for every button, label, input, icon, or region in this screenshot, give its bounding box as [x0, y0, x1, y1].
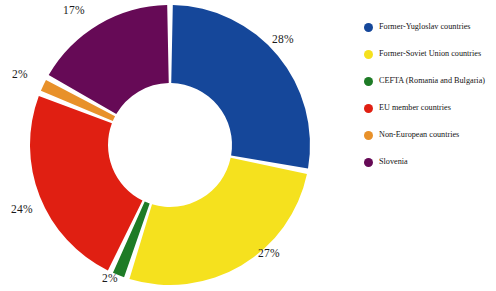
legend-item-label: Slovenia: [379, 158, 408, 166]
legend-item-label: CEFTA (Romania and Bulgaria): [379, 77, 485, 85]
legend-item-eu-member[interactable]: EU member countries: [364, 95, 496, 122]
legend-color-swatch-icon: [364, 50, 373, 59]
legend-item-slovenia[interactable]: Slovenia: [364, 149, 496, 176]
legend-color-swatch-icon: [364, 104, 373, 113]
legend-item-label: Former-Yugloslav countries: [379, 23, 470, 31]
donut-slice[interactable]: [129, 158, 307, 285]
chart-legend: Former-Yugloslav countries Former-Soviet…: [364, 14, 496, 176]
legend-item-non-european[interactable]: Non-European countries: [364, 122, 496, 149]
donut-slice[interactable]: [171, 5, 310, 168]
slice-percent-label-eu-member: 24%: [11, 203, 33, 215]
legend-color-swatch-icon: [364, 131, 373, 140]
slice-percent-label-former-yugoslav: 28%: [272, 33, 294, 45]
legend-item-label: Non-European countries: [379, 131, 459, 139]
donut-slice-group: [30, 5, 310, 285]
donut-chart-figure: 28% 27% 2% 24% 2% 17% Former-Yugloslav c…: [0, 0, 496, 291]
chart-plot-area: 28% 27% 2% 24% 2% 17%: [0, 0, 350, 291]
slice-percent-label-non-european: 2%: [12, 68, 28, 80]
legend-item-cefta[interactable]: CEFTA (Romania and Bulgaria): [364, 68, 496, 95]
legend-color-swatch-icon: [364, 23, 373, 32]
legend-item-former-yugoslav[interactable]: Former-Yugloslav countries: [364, 14, 496, 41]
slice-percent-label-slovenia: 17%: [63, 4, 85, 16]
donut-slice[interactable]: [30, 96, 142, 270]
legend-item-label: EU member countries: [379, 104, 451, 112]
legend-item-former-soviet[interactable]: Former-Soviet Union countries: [364, 41, 496, 68]
slice-percent-label-cefta: 2%: [102, 272, 118, 284]
legend-item-label: Former-Soviet Union countries: [379, 50, 481, 58]
legend-color-swatch-icon: [364, 158, 373, 167]
donut-chart-svg: [0, 0, 350, 291]
slice-percent-label-former-soviet: 27%: [258, 247, 280, 259]
legend-color-swatch-icon: [364, 77, 373, 86]
